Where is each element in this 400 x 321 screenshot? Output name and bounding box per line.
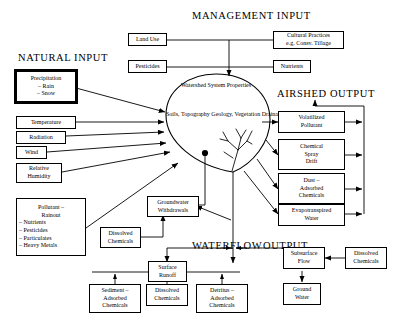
link-blob-dust [257,159,278,189]
box-sediment-adsorbed-chemicals[interactable]: Sediment –AdsorbedChemicals [89,284,141,313]
box-label-line: Sediment – [101,287,128,295]
box-label-line: Wind [25,149,38,157]
box-label-line: Subsurface [291,250,318,258]
box-label-line: Dissolved [354,250,378,258]
box-evapotranspired-water[interactable]: EvapotranspiredWater [278,204,345,226]
box-label-line: Precipitation [31,75,62,83]
box-label-line: – Pesticides [19,227,83,235]
blob-heading: Watershed System Properties [176,81,256,90]
box-label-line: Withdrawals [158,207,188,215]
box-precipitation[interactable]: Precipitation– Rain– Snow [16,71,76,102]
blob-heading-line2: Properties [227,82,251,88]
box-relative-humidity[interactable]: RelativeHumidity [16,163,62,183]
link-tip-to-groundwater [196,206,231,220]
box-ground-water[interactable]: GroundWater [283,283,321,305]
box-label-line: Dust – [304,177,320,185]
box-dissolved-chemicals-runoff[interactable]: DissolvedChemicals [146,284,188,306]
box-label-line: Chemicals [108,238,133,246]
blob-body-line1: Soils, Topography [166,111,210,117]
box-label-line: Drift [306,158,318,166]
box-label-line: Land Use [136,36,159,44]
box-label-line: Runoff [159,272,176,280]
box-label-line: – Heavy Metals [19,242,83,250]
box-label-line: – Rain [38,83,54,91]
link-wind [47,143,166,152]
box-label-line: Water [304,215,318,223]
box-label-line: – Snow [37,90,55,98]
box-label-line: Detritus – [210,287,234,295]
box-land-use[interactable]: Land Use [128,33,167,46]
well-head-icon [202,150,208,156]
box-groundwater-withdrawals[interactable]: GroundwaterWithdrawals [147,196,199,217]
box-detritus-adsorbed-chemicals[interactable]: Detritus –AdsorbedChemicals [196,284,248,313]
box-label-line: Relative [29,165,49,173]
box-volatilized-pollutant[interactable]: VolatilizedPollutant [278,111,345,133]
link-blob-evapotranspired [244,171,278,214]
box-label-line: Spray [305,151,319,159]
watershed-system-diagram: MANAGEMENT INPUT NATURAL INPUT AIRSHED O… [0,0,400,321]
box-pollutant-rainout[interactable]: Pollutant –Rainout– Nutrients– Pesticide… [16,198,86,256]
box-label-line: Chemicals [209,302,234,310]
box-wind[interactable]: Wind [16,146,47,159]
box-pesticides[interactable]: Pesticides [128,60,167,73]
box-label-line: Chemicals [299,192,324,200]
box-cultural-practices[interactable]: Cultural Practicese.g. Consv. Tillage [273,31,344,49]
vegetation-sketch-icon [220,129,252,171]
box-label-line: – Particulates [19,235,83,243]
heading-waterflow: WATERFLOW [192,240,262,251]
box-label-line: Ground [293,286,311,294]
box-label-line: Humidity [27,173,50,181]
blob-body-line2: Geology, Vegetation [211,111,260,117]
blob-body: Soils, Topography Geology, Vegetation Dr… [166,110,267,119]
heading-airshed-output: AIRSHED OUTPUT [277,88,375,99]
box-label-line: Pollutant [301,122,323,130]
box-dust-adsorbed-chemicals[interactable]: Dust –AdsorbedChemicals [278,173,345,204]
box-dissolved-chemicals-subsurface[interactable]: DissolvedChemicals [345,247,387,269]
box-label-line: Groundwater [157,199,189,207]
heading-natural-input: NATURAL INPUT [18,52,108,63]
box-label-line: Temperature [31,119,61,127]
box-label-line: Cultural Practices [287,32,330,40]
box-label-line: Adsorbed [103,295,126,303]
link-radiation [66,132,164,136]
box-label-line: Chemical [300,143,323,151]
box-temperature[interactable]: Temperature [16,116,76,129]
box-label-line: – Nutrients [19,219,83,227]
blob-heading-line1: Watershed System [181,82,225,88]
box-chemical-spray-drift[interactable]: ChemicalSprayDrift [278,139,345,170]
box-label-line: Adsorbed [300,185,323,193]
link-precipitation [76,88,165,112]
box-dissolved-chemicals-groundwater[interactable]: DissolvedChemicals [100,227,141,248]
link-blob-spray-drift [266,140,278,155]
box-label-line: Flow [298,258,310,266]
box-label-line: Dissolved [155,287,179,295]
box-label-line: Evapotranspired [292,207,331,215]
box-surface-runoff[interactable]: SurfaceRunoff [148,261,187,282]
link-dissolved-to-groundwater [140,215,163,237]
box-label-line: Rainout [42,212,61,220]
box-label-line: Dissolved [109,230,133,238]
box-label-line: Nutrients [281,63,303,71]
airshed-output-arrow [315,100,364,106]
box-label-line: Pollutant – [38,204,64,212]
box-label-line: Chemicals [353,258,378,266]
box-radiation[interactable]: Radiation [16,131,66,144]
box-label-line: Chemicals [102,302,127,310]
box-label-line: Water [295,294,309,302]
box-label-line: Radiation [29,134,52,142]
box-label-line: e.g. Consv. Tillage [286,40,331,48]
box-label-line: Adsorbed [210,295,233,303]
box-subsurface-flow[interactable]: SubsurfaceFlow [283,247,325,269]
link-relative-humidity [62,152,170,172]
box-label-line: Volatilized [299,114,325,122]
box-label-line: Chemicals [154,295,179,303]
box-label-line: Pesticides [136,63,160,71]
box-nutrients[interactable]: Nutrients [273,60,311,73]
heading-management-input: MANAGEMENT INPUT [192,10,311,21]
box-label-line: Surface [158,264,176,272]
